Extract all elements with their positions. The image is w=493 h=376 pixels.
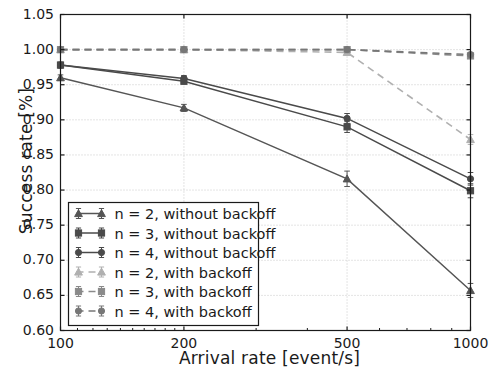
data-point-marker <box>181 75 187 81</box>
legend-label: n = 4, without backoff <box>115 245 277 261</box>
data-point-marker <box>75 230 81 236</box>
y-tick-label: 0.80 <box>10 181 54 197</box>
data-point-marker <box>344 124 350 130</box>
series-6 <box>57 47 473 58</box>
x-tick-label: 200 <box>154 335 214 351</box>
y-tick-label: 0.90 <box>10 111 54 127</box>
legend-label: n = 3, without backoff <box>115 226 277 242</box>
x-tick-label: 500 <box>317 335 377 351</box>
data-point-marker <box>98 249 104 255</box>
x-tick-label: 1000 <box>441 335 493 351</box>
x-axis-title: Arrival rate [event/s] <box>60 348 479 368</box>
legend-label: n = 2, with backoff <box>115 265 253 281</box>
series-line <box>61 65 471 191</box>
data-point-marker <box>344 47 350 53</box>
series-line <box>61 65 471 179</box>
legend: n = 2, without backoffn = 3, without bac… <box>69 203 277 326</box>
data-point-marker <box>98 288 104 294</box>
y-tick-label: 0.85 <box>10 146 54 162</box>
y-tick-label: 1.05 <box>10 6 54 22</box>
series-line <box>61 50 471 55</box>
y-tick-label: 1.00 <box>10 41 54 57</box>
y-tick-label: 0.75 <box>10 216 54 232</box>
y-tick-label: 0.70 <box>10 251 54 267</box>
data-point-marker <box>75 288 81 294</box>
series-3 <box>57 62 473 185</box>
data-point-marker <box>344 115 350 121</box>
legend-label: n = 4, with backoff <box>115 304 253 320</box>
data-point-marker <box>75 308 81 314</box>
y-tick-label: 0.95 <box>10 76 54 92</box>
y-tick-label: 0.65 <box>10 286 54 302</box>
data-point-marker <box>181 47 187 53</box>
data-point-marker <box>98 230 104 236</box>
x-tick-label: 100 <box>31 335 91 351</box>
series-4 <box>57 46 475 145</box>
series-line <box>61 50 471 140</box>
legend-label: n = 2, without backoff <box>115 206 277 222</box>
legend-label: n = 3, with backoff <box>115 284 253 300</box>
series-2 <box>57 62 473 198</box>
data-point-marker <box>98 308 104 314</box>
data-point-marker <box>75 249 81 255</box>
